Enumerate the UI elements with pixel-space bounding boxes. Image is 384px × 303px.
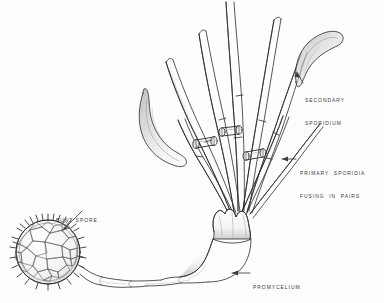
promycelium-apex [213, 209, 251, 243]
secondary-sporidium-right [296, 31, 344, 86]
label-primary-sporidia: PRIMARY SPORIDIA FUSING IN PAIRS [300, 155, 365, 208]
bunt-fungus-life-cycle-illustration: SECONDARY SPORIDIUM PRIMARY SPORIDIA FUS… [0, 0, 384, 303]
label-bunt-spore-line1: BUNT SPORE [56, 217, 98, 225]
illustration-canvas [0, 0, 384, 303]
label-secondary-sporidium-line1: SECONDARY [305, 97, 345, 105]
label-promycelium: PROMYCELIUM [253, 269, 301, 299]
label-primary-sporidia-line2: FUSING IN PAIRS [300, 193, 365, 201]
promycelium-tube [80, 239, 251, 287]
label-bunt-spore: BUNT SPORE [56, 202, 98, 232]
label-secondary-sporidium-line2: SPORIDIUM [305, 120, 345, 128]
label-secondary-sporidium: SECONDARY SPORIDIUM [305, 82, 345, 135]
label-primary-sporidia-line1: PRIMARY SPORIDIA [300, 170, 365, 178]
label-promycelium-line1: PROMYCELIUM [253, 284, 301, 292]
